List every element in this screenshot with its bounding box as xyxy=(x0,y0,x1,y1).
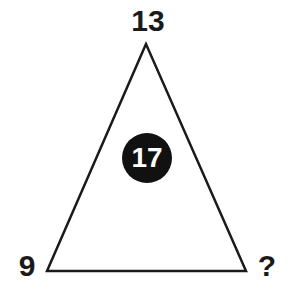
center-circle: 17 xyxy=(122,133,172,183)
bottom-left-vertex-number: 9 xyxy=(12,251,42,281)
center-number: 17 xyxy=(131,144,162,172)
number-triangle-puzzle: 13 9 ? 17 xyxy=(0,0,296,290)
top-vertex-number: 13 xyxy=(118,6,178,36)
bottom-right-vertex-unknown: ? xyxy=(252,251,282,281)
